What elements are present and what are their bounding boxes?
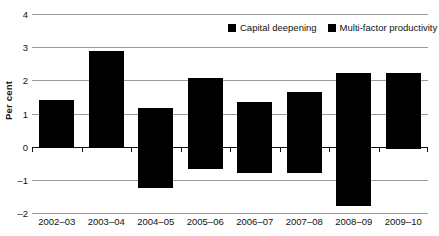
category-tick (379, 147, 380, 152)
legend-swatch-icon (328, 24, 336, 32)
gridline (32, 213, 428, 214)
x-tick-label: 2009–10 (385, 216, 422, 227)
legend-label: Multi-factor productivity (340, 22, 438, 33)
plot-area (32, 14, 428, 213)
y-axis-tick-labels: 43210–1–2 (0, 14, 28, 213)
x-tick-label: 2005–06 (187, 216, 224, 227)
legend-item[interactable]: Capital deepening (228, 22, 317, 33)
category-tick (181, 147, 182, 152)
x-tick-label: 2008–09 (335, 216, 372, 227)
bar-segment (188, 78, 223, 147)
chart-legend: Capital deepeningMulti-factor productivi… (226, 21, 439, 34)
x-tick-label: 2004–05 (137, 216, 174, 227)
bar-segment (237, 147, 272, 173)
category-tick (32, 147, 33, 152)
bar-segment (287, 92, 322, 146)
x-tick-label: 2006–07 (236, 216, 273, 227)
category-tick (427, 147, 428, 152)
bar-segment (89, 147, 124, 148)
bar-segment (39, 100, 74, 146)
bar-segment (138, 108, 173, 147)
x-tick-label: 2003–04 (88, 216, 125, 227)
bar-segment (89, 51, 124, 147)
bar-segment (39, 147, 74, 148)
legend-label: Capital deepening (240, 22, 317, 33)
y-tick-label: 2 (6, 75, 28, 86)
bar-segment (188, 147, 223, 169)
x-tick-label: 2002–03 (38, 216, 75, 227)
category-tick (82, 147, 83, 152)
category-tick (280, 147, 281, 152)
bar-segment (287, 147, 322, 173)
y-tick-label: 1 (6, 108, 28, 119)
category-tick (230, 147, 231, 152)
legend-item[interactable]: Multi-factor productivity (328, 22, 438, 33)
bar-segment (336, 147, 371, 206)
bar-segment (336, 73, 371, 147)
bar-segment (386, 73, 421, 147)
bar-segment (386, 147, 421, 150)
y-tick-label: –2 (6, 208, 28, 219)
x-axis-tick-labels: 2002–032003–042004–052005–062006–072007–… (32, 216, 428, 234)
bar-segment (138, 147, 173, 188)
y-tick-label: 0 (6, 141, 28, 152)
category-tick (329, 147, 330, 152)
y-tick-label: 4 (6, 9, 28, 20)
x-tick-label: 2007–08 (286, 216, 323, 227)
category-tick (131, 147, 132, 152)
legend-swatch-icon (228, 24, 236, 32)
y-tick-label: –1 (6, 174, 28, 185)
bars-layer (32, 14, 428, 213)
bar-segment (237, 102, 272, 147)
y-tick-label: 3 (6, 42, 28, 53)
